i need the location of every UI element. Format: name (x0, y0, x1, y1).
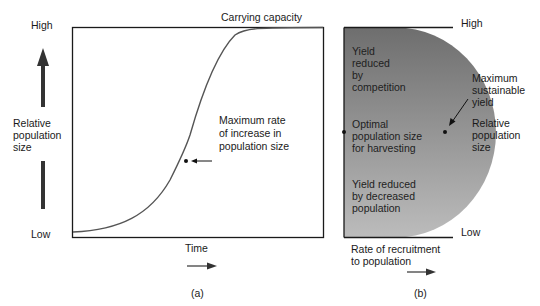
up-arrow-shaft (41, 62, 45, 107)
carrying-capacity-label: Carrying capacity (221, 11, 302, 23)
down-bar (41, 161, 45, 209)
diagram-canvas (0, 0, 540, 306)
up-arrow-icon (37, 48, 49, 66)
y-low-label-b: Low (461, 226, 480, 238)
right-arrow-icon (207, 263, 217, 270)
region-competition-label: Yield reduced by competition (352, 45, 406, 93)
x-axis-label-a: Time (185, 242, 208, 254)
left-arrow-icon (191, 159, 197, 164)
caption-a: (a) (191, 287, 204, 299)
region-decreased-label: Yield reduced by decreased population (352, 178, 416, 214)
y-low-label-a: Low (31, 228, 50, 240)
y-high-label-b: High (461, 17, 483, 29)
inflection-point (184, 159, 188, 163)
max-rate-annotation: Maximum rate of increase in population s… (219, 114, 289, 153)
x-axis-label-b: Rate of recruitment to population (351, 243, 440, 267)
region-optimal-label: Optimal population size for harvesting (352, 118, 422, 154)
max-yield-point (443, 130, 447, 134)
y-axis-label-a: Relative population size (13, 117, 61, 153)
caption-b: (b) (414, 287, 427, 299)
y-high-label-a: High (31, 19, 53, 31)
optimal-point-left (342, 130, 346, 134)
right-arrow-icon-b (426, 269, 436, 276)
max-sustainable-yield-label: Maximum sustainable yield (472, 72, 525, 108)
relative-population-size-label-b: Relative population size (472, 117, 520, 153)
